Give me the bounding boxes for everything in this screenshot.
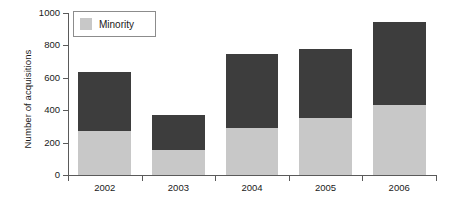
x-axis-tick [68,176,69,181]
x-axis-tick-label: 2006 [369,183,429,193]
bar-segment-other [78,72,131,131]
bar-chart: Number of acquisitions 02004006008001000… [0,0,449,198]
legend-swatch-minority [80,18,92,30]
y-axis-tick-label: 400 [18,105,60,115]
bar-segment-minority [373,105,426,175]
x-axis-tick-label: 2004 [222,183,282,193]
x-axis-tick [215,176,216,181]
y-axis-title: Number of acquisitions [18,0,36,198]
y-axis-tick-label: 0 [18,170,60,180]
y-axis-tick-label: 1000 [18,8,60,18]
x-axis-tick-label: 2005 [296,183,356,193]
bar-stack [299,13,352,175]
x-axis-line [68,175,437,176]
y-axis-title-label: Number of acquisitions [22,50,33,149]
bar-segment-other [226,54,279,129]
bar-stack [78,13,131,175]
y-axis-tick-label: 200 [18,138,60,148]
bar-segment-other [373,22,426,105]
bar-stack [152,13,205,175]
x-axis-tick [142,176,143,181]
y-axis-tick-label: 800 [18,40,60,50]
x-axis-tick [362,176,363,181]
x-axis-tick-label: 2003 [148,183,208,193]
bar-segment-minority [226,128,279,175]
x-axis-tick [289,176,290,181]
legend-label-minority: Minority [99,19,134,30]
legend: Minority [73,11,156,37]
x-axis-tick-label: 2002 [75,183,135,193]
bar-stack [226,13,279,175]
y-axis-tick-label: 600 [18,73,60,83]
bar-segment-minority [152,150,205,175]
bar-stack [373,13,426,175]
bar-segment-other [152,115,205,150]
x-axis-tick [436,176,437,181]
bar-segment-minority [78,131,131,175]
bar-segment-minority [299,118,352,175]
plot-area [68,13,436,175]
bar-segment-other [299,49,352,118]
